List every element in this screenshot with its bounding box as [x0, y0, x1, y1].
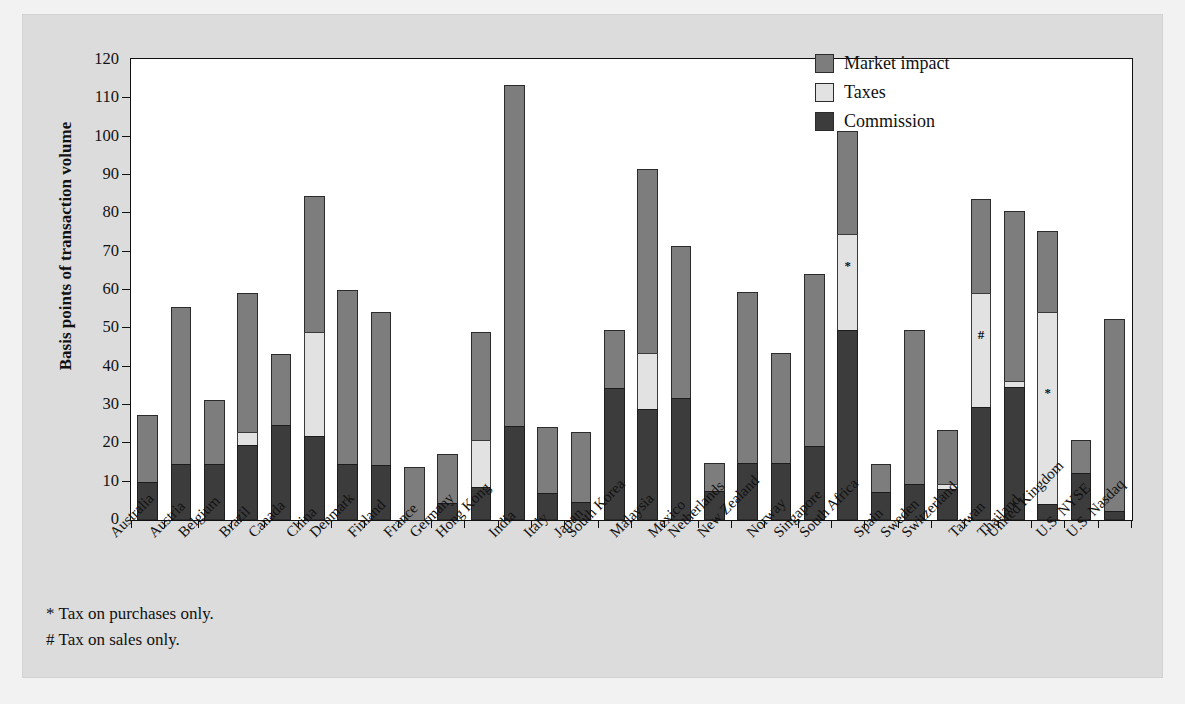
bar-segment-market-impact: [671, 246, 692, 399]
footnotes: * Tax on purchases only.# Tax on sales o…: [46, 601, 214, 654]
y-tick-mark: [122, 442, 131, 443]
bar-south-africa[interactable]: *: [837, 131, 858, 520]
y-tick-label: 100: [94, 126, 119, 146]
plot-area: 0102030405060708090100110120*#*: [130, 58, 1133, 521]
bar-sweden[interactable]: [904, 330, 925, 520]
bar-segment-market-impact: [737, 292, 758, 463]
y-tick-label: 20: [103, 432, 120, 452]
bar-segment-market-impact: [537, 427, 558, 493]
chart-legend: Market impactTaxesCommission: [815, 49, 949, 136]
legend-item-market[interactable]: Market impact: [815, 49, 949, 78]
bar-segment-market-impact: [937, 430, 958, 484]
bar-segment-market-impact: [1071, 440, 1092, 473]
bar-segment-market-impact: [304, 196, 325, 332]
y-tick-label: 60: [103, 279, 120, 299]
bar-segment-taxes: [971, 293, 992, 408]
y-tick-label: 70: [103, 241, 120, 261]
legend-item-taxes[interactable]: Taxes: [815, 78, 949, 107]
y-tick-label: 30: [103, 394, 120, 414]
bar-segment-market-impact: [571, 432, 592, 503]
footnote: * Tax on purchases only.: [46, 601, 214, 627]
bar-norway[interactable]: [771, 353, 792, 520]
y-tick-label: 90: [103, 164, 120, 184]
y-tick-mark: [122, 289, 131, 290]
bar-segment-market-impact: [137, 415, 158, 482]
bar-segment-market-impact: [504, 85, 525, 427]
bar-segment-market-impact: [904, 330, 925, 483]
bar-segment-taxes: [837, 234, 858, 330]
legend-swatch-icon: [815, 112, 834, 131]
x-tick-mark: [464, 520, 465, 528]
bar-singapore[interactable]: [804, 274, 825, 520]
x-tick-mark: [731, 520, 732, 528]
y-tick-mark: [122, 136, 131, 137]
x-tick-mark: [1131, 520, 1132, 528]
bar-segment-market-impact: [604, 330, 625, 388]
bar-segment-taxes: [1004, 381, 1025, 387]
bar-thailand[interactable]: [1004, 211, 1025, 520]
bar-segment-market-impact: [1037, 231, 1058, 312]
x-tick-mark: [931, 520, 932, 528]
y-tick-mark: [122, 481, 131, 482]
bar-segment-market-impact: [237, 293, 258, 432]
y-tick-mark: [122, 366, 131, 367]
bar-segment-market-impact: [371, 312, 392, 465]
bar-segment-market-impact: [637, 169, 658, 353]
bar-segment-market-impact: [171, 307, 192, 464]
bar-denmark[interactable]: [337, 290, 358, 520]
legend-swatch-icon: [815, 83, 834, 102]
legend-item-commission[interactable]: Commission: [815, 107, 949, 136]
bar-segment-market-impact: [1004, 211, 1025, 380]
bar-segment-market-impact: [771, 353, 792, 463]
y-tick-mark: [122, 251, 131, 252]
bar-segment-taxes: [637, 353, 658, 409]
y-tick-label: 40: [103, 356, 120, 376]
bar-canada[interactable]: [271, 354, 292, 520]
bar-austria[interactable]: [171, 307, 192, 520]
y-tick-mark: [122, 212, 131, 213]
bar-segment-commission: [1104, 511, 1125, 520]
x-tick-mark: [1031, 520, 1032, 528]
footnote: # Tax on sales only.: [46, 627, 214, 653]
y-axis-title: Basis points of transaction volume: [56, 116, 76, 376]
y-tick-mark: [122, 404, 131, 405]
bar-segment-market-impact: [271, 354, 292, 425]
bar-segment-taxes: [304, 332, 325, 436]
y-tick-label: 50: [103, 317, 120, 337]
legend-label: Commission: [844, 111, 935, 132]
y-tick-label: 120: [94, 49, 119, 69]
bar-segment-taxes: [237, 432, 258, 445]
y-tick-mark: [122, 174, 131, 175]
bar-segment-market-impact: [204, 400, 225, 464]
bar-finland[interactable]: [371, 312, 392, 520]
bar-segment-market-impact: [337, 290, 358, 464]
chart-figure: Basis points of transaction volume 01020…: [22, 14, 1163, 678]
y-tick-mark: [122, 327, 131, 328]
bar-segment-market-impact: [471, 332, 492, 439]
y-tick-label: 80: [103, 202, 120, 222]
plot-inner: 0102030405060708090100110120*#*: [131, 59, 1132, 520]
bar-brazil[interactable]: [237, 293, 258, 520]
bar-segment-market-impact: [871, 464, 892, 491]
y-tick-mark: [122, 97, 131, 98]
bar-italy[interactable]: [537, 427, 558, 520]
bar-india[interactable]: [504, 85, 525, 520]
x-tick-mark: [831, 520, 832, 528]
bar-taiwan[interactable]: #: [971, 199, 992, 520]
bar-segment-market-impact: [804, 274, 825, 447]
legend-label: Taxes: [844, 82, 886, 103]
y-tick-label: 110: [95, 87, 119, 107]
bar-china[interactable]: [304, 196, 325, 520]
legend-swatch-icon: [815, 54, 834, 73]
y-tick-label: 10: [103, 471, 120, 491]
x-tick-mark: [598, 520, 599, 528]
legend-label: Market impact: [844, 53, 949, 74]
x-tick-mark: [1098, 520, 1099, 528]
bar-segment-market-impact: [837, 131, 858, 234]
bar-segment-market-impact: [971, 199, 992, 293]
bar-mexico[interactable]: [671, 246, 692, 520]
bar-malaysia[interactable]: [637, 169, 658, 520]
